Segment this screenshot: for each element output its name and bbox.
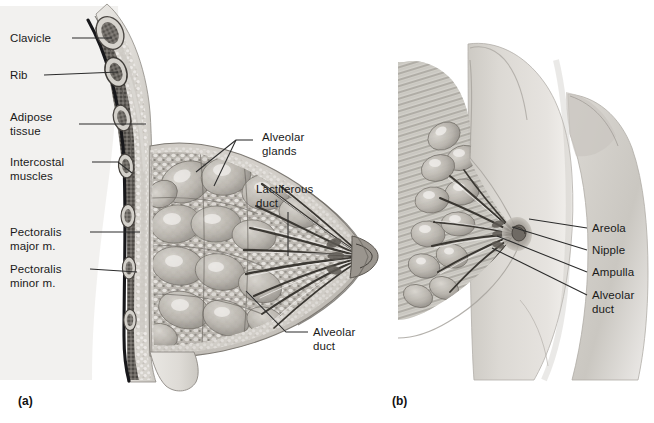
rib-bones bbox=[101, 54, 136, 330]
leader-pect-minor bbox=[90, 269, 137, 272]
label-alveolar-duct-b-line1: Alveolar bbox=[592, 288, 634, 303]
caption-panel-a: (a) bbox=[18, 394, 33, 408]
caption-panel-b: (b) bbox=[392, 394, 407, 408]
label-pectoralis-minor-line1: Pectoralis bbox=[10, 262, 62, 277]
label-alveolar-duct-b-line2: duct bbox=[592, 302, 614, 317]
label-clavicle: Clavicle bbox=[10, 31, 51, 46]
leader-rib bbox=[44, 72, 118, 75]
label-adipose-tissue-line1: Adipose bbox=[10, 110, 52, 125]
label-alveolar-duct-a-line1: Alveolar bbox=[313, 325, 355, 340]
leader-lines bbox=[0, 0, 654, 423]
label-nipple: Nipple bbox=[592, 243, 625, 258]
label-pectoralis-major-line1: Pectoralis bbox=[10, 225, 62, 240]
label-pectoralis-minor-line2: minor m. bbox=[10, 276, 56, 291]
leader-intercostal bbox=[92, 162, 132, 173]
leader-areola bbox=[529, 219, 587, 228]
label-intercostal-muscles-line2: muscles bbox=[10, 169, 53, 184]
label-alveolar-duct-a-line2: duct bbox=[313, 339, 335, 354]
label-intercostal-muscles-line1: Intercostal bbox=[10, 155, 64, 170]
label-lactiferous-duct-line2: duct bbox=[256, 196, 278, 211]
label-adipose-tissue-line2: tissue bbox=[10, 124, 41, 139]
nipple-areola-a bbox=[350, 236, 378, 278]
panel-b-artwork bbox=[392, 43, 648, 380]
leader-alveolar-duct-a bbox=[246, 291, 308, 332]
leader-ampulla bbox=[497, 236, 587, 272]
label-ampulla: Ampulla bbox=[592, 265, 634, 280]
leader-alveolar-glands-c bbox=[214, 140, 236, 186]
label-rib: Rib bbox=[10, 68, 28, 83]
label-pectoralis-major-line2: major m. bbox=[10, 239, 56, 254]
leader-alveolar-glands-b bbox=[196, 140, 236, 172]
label-areola: Areola bbox=[592, 221, 626, 236]
leader-nipple bbox=[512, 227, 587, 250]
clavicle-bone bbox=[91, 12, 129, 54]
illustration-artwork bbox=[0, 0, 654, 423]
mammary-gland-figure: Clavicle Rib Adipose tissue Intercostal … bbox=[0, 0, 654, 423]
label-alveolar-glands-line1: Alveolar bbox=[262, 130, 304, 145]
label-lactiferous-duct-line1: Lactiferous bbox=[256, 182, 313, 197]
leader-alveolar-duct-b bbox=[492, 248, 587, 295]
nipple-areola-b bbox=[502, 217, 532, 251]
label-alveolar-glands-line2: glands bbox=[262, 144, 297, 159]
